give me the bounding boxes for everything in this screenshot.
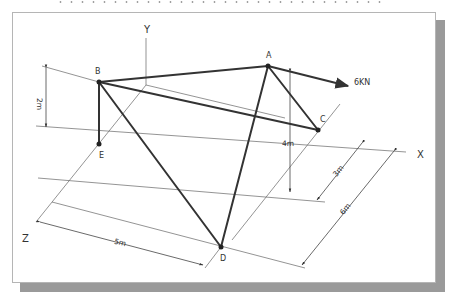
joint-c: [316, 128, 321, 133]
dim-6m-label: 6m: [338, 201, 353, 216]
member-ad: [221, 66, 268, 247]
member-ab: [99, 66, 268, 82]
load-arrow: [268, 66, 348, 86]
upper-ref-line: [42, 66, 99, 82]
x-axis-line: [36, 126, 406, 152]
member-bd: [99, 82, 221, 247]
joint-a: [266, 64, 271, 69]
construction-lines: [36, 38, 406, 268]
joint-e: [97, 142, 102, 147]
ref-line-origin: [146, 85, 285, 118]
x-axis-label: X: [417, 149, 424, 160]
truss-members: [99, 66, 318, 247]
c-z-line: [232, 104, 340, 240]
dim-3m-label: 3m: [331, 163, 346, 178]
label-a: A: [266, 51, 272, 60]
label-b: B: [95, 67, 101, 76]
dim-5m-label: 5m: [113, 237, 127, 249]
d-ext-line: [205, 247, 221, 268]
joint-b: [97, 80, 102, 85]
label-d: D: [220, 254, 226, 263]
y-axis-label: Y: [143, 24, 151, 35]
label-e: E: [99, 151, 104, 160]
base-3m-line: [38, 178, 325, 202]
truss-diagram: A B C D E 6KN Y X Z 2m 4m 3m 6m 5m: [0, 0, 455, 294]
label-c: C: [320, 115, 326, 124]
z-axis-line: [36, 85, 146, 222]
dim-4m-label: 4m: [282, 139, 294, 148]
dim-2m-label: 2m: [35, 98, 44, 110]
load-label: 6KN: [354, 78, 370, 87]
z-axis-label: Z: [22, 233, 29, 244]
joint-d: [219, 245, 224, 250]
